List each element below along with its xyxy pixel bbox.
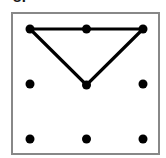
grid-dot-r1c2 [139, 80, 148, 89]
grid-dot-r0c2 [139, 25, 148, 34]
inverted-triangle-shape [30, 29, 143, 85]
grid-dot-r2c0 [26, 135, 35, 144]
dot-grid-figure [0, 0, 166, 158]
grid-dot-r0c0 [26, 25, 35, 34]
grid-dot-r0c1 [82, 25, 91, 34]
grid-dot-r2c2 [139, 135, 148, 144]
grid-dot-r2c1 [82, 135, 91, 144]
triangle-layer [30, 29, 143, 85]
grid-dot-r1c1 [82, 81, 91, 90]
figure-root: 8. [0, 0, 166, 158]
grid-dot-r1c0 [26, 80, 35, 89]
